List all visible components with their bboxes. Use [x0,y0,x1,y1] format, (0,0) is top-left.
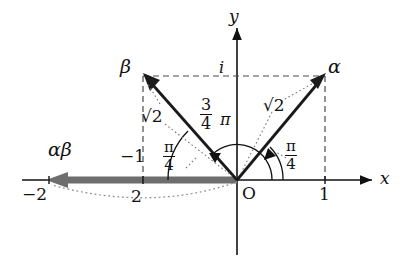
alpha-argument-label: π 4 [284,139,298,172]
arc-alpha-arrowhead [264,148,276,160]
product-argument-fraction: 3 4 [199,97,213,132]
product-label: αβ [48,140,72,159]
product-argument-numerator: 3 [199,97,213,114]
leader-beta-angle [186,158,196,168]
beta-argument-numerator: π [162,140,176,156]
imaginary-unit-label: i [219,60,224,76]
leader-alpha-modulus [281,84,312,101]
axis-group [22,28,372,255]
rotation-arc-value-label: 2 [131,188,142,205]
beta-argument-denominator: 4 [162,157,176,173]
beta-argument-label: π 4 [162,140,176,173]
x-axis-arrowhead [360,175,372,185]
complex-plane-figure: x y i O α β αβ 1 −1 −2 2 √2 √2 π 4 π 4 3… [0,0,404,269]
beta-point-label: β [120,57,131,76]
tick-label-minus-two: −2 [22,186,47,203]
product-argument-denominator: 4 [199,115,213,132]
origin-label: O [242,185,256,202]
tick-label-minus-one: −1 [120,148,145,165]
alpha-vector-group [237,73,326,180]
alpha-argument-denominator: 4 [284,156,298,172]
alpha-argument-numerator: π [284,139,298,155]
alpha-point-label: α [328,57,341,76]
rotation-arc-group [52,182,237,198]
rotation-arc-to-product [52,182,237,198]
alpha-modulus-label: √2 [263,97,285,114]
y-axis-label: y [229,8,239,25]
beta-modulus-label: √2 [141,108,163,125]
product-argument-pi-symbol: π [220,112,231,128]
tick-label-one: 1 [319,186,330,203]
x-axis-label: x [380,170,390,187]
y-axis-arrowhead [232,28,242,40]
diagram-canvas [0,0,404,269]
